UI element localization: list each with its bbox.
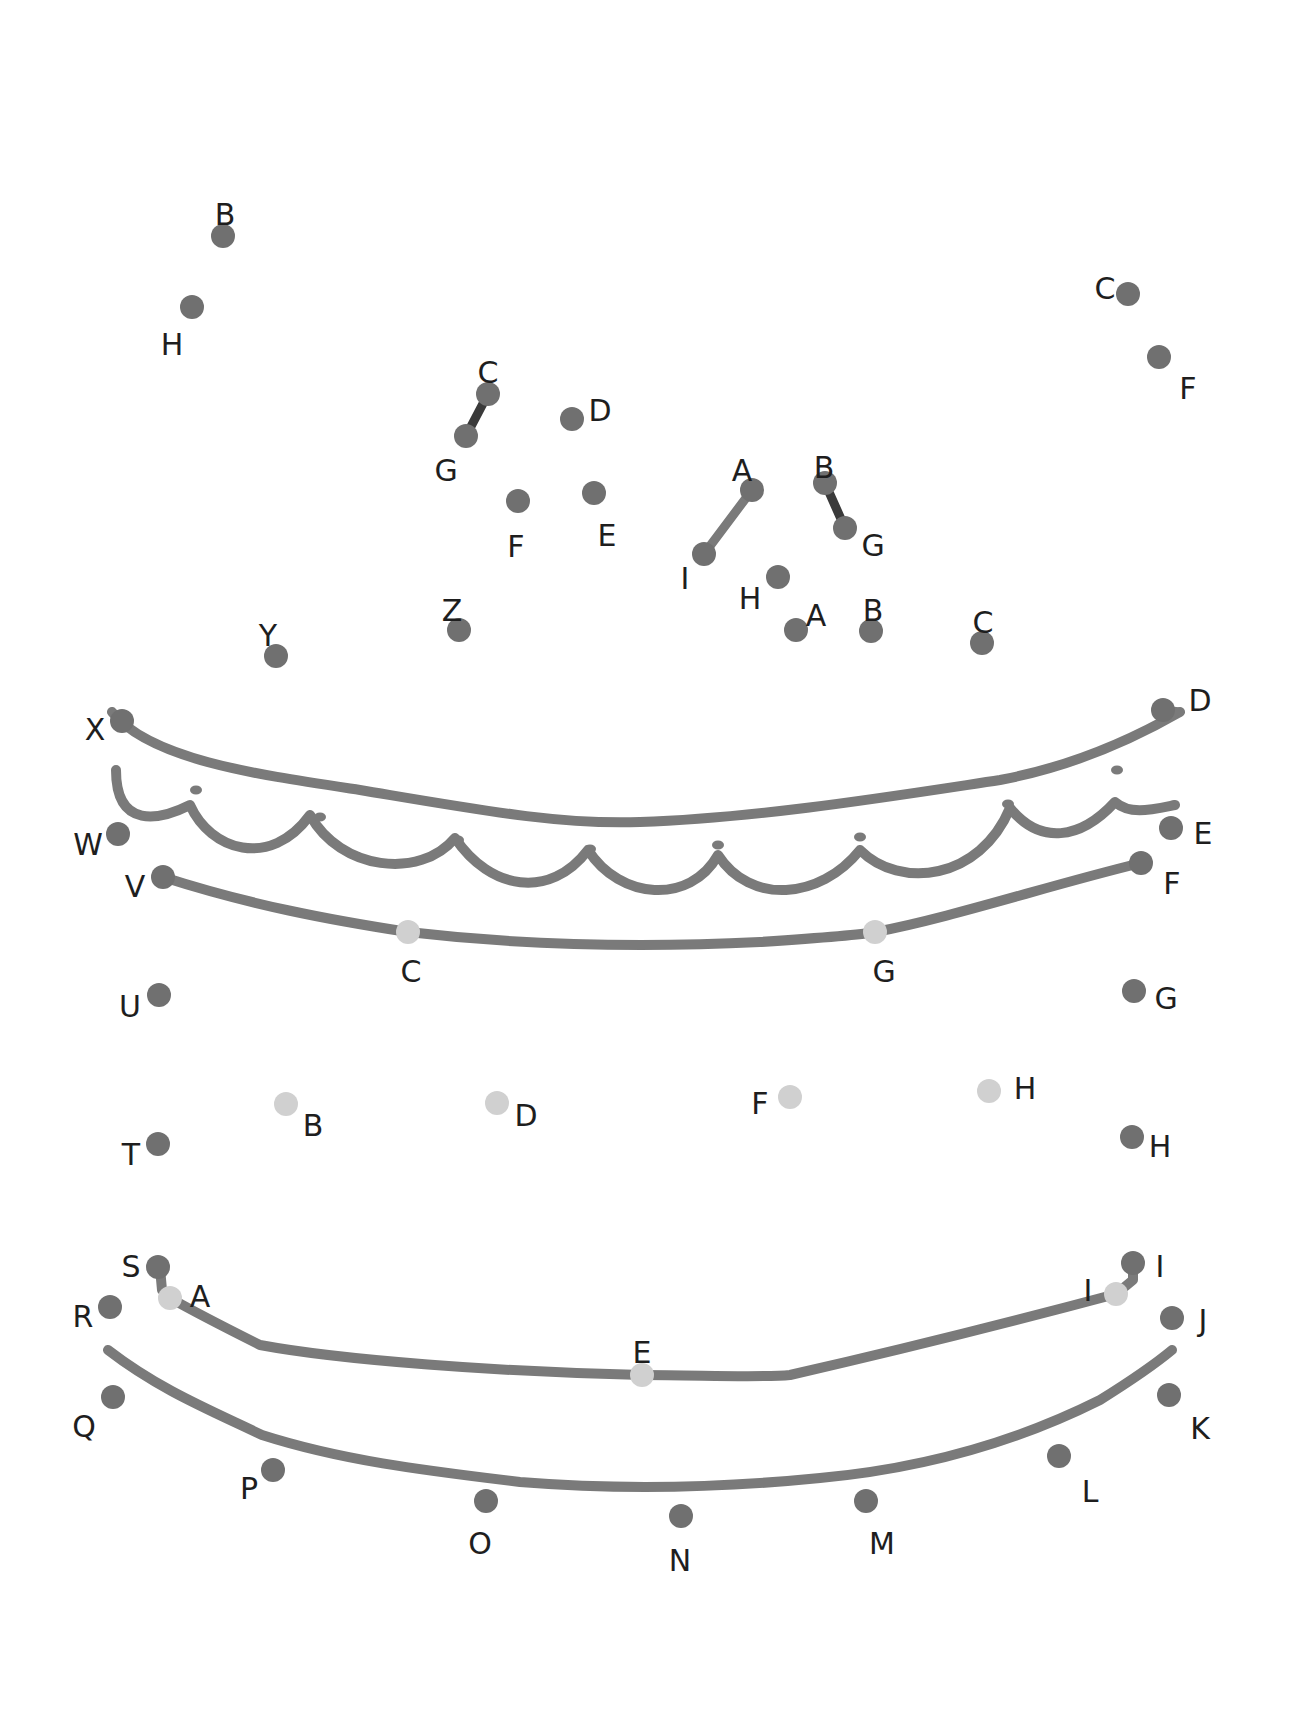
dot-f-hat-top-right[interactable] [1147, 345, 1171, 369]
dot-x-outline[interactable] [110, 709, 134, 733]
dot-h-outline[interactable] [1120, 1125, 1144, 1149]
dot-label: N [669, 1543, 691, 1578]
dot-label: C [401, 954, 422, 989]
dot-d-candle-left[interactable] [560, 407, 584, 431]
dot-i-outline[interactable] [1121, 1251, 1145, 1275]
dot-a-inner[interactable] [158, 1286, 182, 1310]
dot-label: K [1190, 1411, 1211, 1446]
dot-i-inner[interactable] [1104, 1282, 1128, 1306]
scallop-dot [1002, 800, 1014, 809]
dot-v-outline[interactable] [151, 865, 175, 889]
dot-label: G [861, 528, 884, 563]
dot-label: Z [442, 593, 463, 628]
dot-label: F [1163, 866, 1180, 901]
dot-label: T [121, 1137, 141, 1172]
dot-f-candle-left[interactable] [506, 489, 530, 513]
dot-e-outline[interactable] [1159, 816, 1183, 840]
dot-q-outline[interactable] [101, 1385, 125, 1409]
scallop-dot [190, 786, 202, 795]
dot-h-candle-right[interactable] [766, 565, 790, 589]
dot-h-inner[interactable] [977, 1079, 1001, 1103]
dot-label: B [303, 1108, 324, 1143]
scallop-dot [314, 813, 326, 822]
dot-label: L [1082, 1474, 1099, 1509]
page-background [0, 0, 1307, 1717]
dot-label: H [739, 581, 762, 616]
dot-label: I [1084, 1273, 1093, 1308]
scallop-dot [584, 845, 596, 854]
dot-m-outline[interactable] [854, 1489, 878, 1513]
scallop-dot [452, 836, 464, 845]
dot-label: F [507, 529, 524, 564]
dot-label: F [1179, 371, 1196, 406]
dot-label: E [598, 518, 617, 553]
dot-label: G [434, 453, 457, 488]
dot-label: B [814, 450, 835, 485]
dot-label: G [1154, 981, 1177, 1016]
dot-label: A [732, 453, 753, 488]
dot-i-candle-right[interactable] [692, 542, 716, 566]
dot-label: P [240, 1471, 258, 1506]
scallop-dot [712, 841, 724, 850]
dot-label: A [806, 598, 827, 633]
dot-a-candle-right[interactable] [784, 618, 808, 642]
dot-l-outline[interactable] [1047, 1444, 1071, 1468]
dot-label: Q [72, 1409, 96, 1444]
dot-label: V [125, 869, 146, 904]
dot-label: I [1156, 1249, 1165, 1284]
dot-label: O [468, 1526, 492, 1561]
dot-g-inner[interactable] [863, 920, 887, 944]
dot-label: B [863, 593, 884, 628]
dot-label: S [121, 1249, 140, 1284]
dot-c-hat-top-right[interactable] [1116, 282, 1140, 306]
dot-label: D [514, 1098, 537, 1133]
dot-label: J [1197, 1303, 1208, 1338]
dot-label: M [869, 1526, 895, 1561]
dot-f-inner[interactable] [778, 1085, 802, 1109]
dot-label: E [1194, 816, 1213, 851]
dot-u-outline[interactable] [147, 983, 171, 1007]
dot-to-dot-canvas: BHCGDEFAIBGHABCCFXYZDEFGHIJKLMNOPQRSTUVW… [0, 0, 1307, 1717]
dot-label: D [588, 393, 611, 428]
dot-label: R [73, 1299, 94, 1334]
dot-label: G [872, 954, 895, 989]
dot-t-outline[interactable] [146, 1132, 170, 1156]
dot-o-outline[interactable] [474, 1489, 498, 1513]
dot-label: B [215, 197, 236, 232]
dot-label: C [1095, 271, 1116, 306]
dot-label: H [1149, 1129, 1172, 1164]
dot-e-candle-left[interactable] [582, 481, 606, 505]
dot-label: X [85, 712, 106, 747]
dot-r-outline[interactable] [98, 1295, 122, 1319]
dot-g-candle-left[interactable] [454, 424, 478, 448]
dot-h-hat-top-left[interactable] [180, 295, 204, 319]
dot-label: E [633, 1335, 652, 1370]
dot-label: A [190, 1279, 211, 1314]
dot-f-outline[interactable] [1129, 851, 1153, 875]
dot-label: I [681, 561, 690, 596]
dot-label: C [973, 605, 994, 640]
scallop-dot [854, 833, 866, 842]
dot-n-outline[interactable] [669, 1504, 693, 1528]
dot-g-candle-right[interactable] [833, 516, 857, 540]
dot-label: F [751, 1086, 768, 1121]
dot-p-outline[interactable] [261, 1458, 285, 1482]
dot-label: U [119, 989, 141, 1024]
scallop-dot [1111, 766, 1123, 775]
dot-b-inner[interactable] [274, 1092, 298, 1116]
dot-k-outline[interactable] [1157, 1383, 1181, 1407]
dot-label: H [1014, 1071, 1037, 1106]
dot-g-outline[interactable] [1122, 979, 1146, 1003]
dot-label: D [1188, 683, 1211, 718]
dot-label: Y [258, 618, 278, 653]
dot-label: W [73, 827, 103, 862]
dot-s-outline[interactable] [146, 1255, 170, 1279]
dot-label: C [478, 355, 499, 390]
dot-w-outline[interactable] [106, 822, 130, 846]
dot-label: H [161, 327, 184, 362]
dot-c-inner[interactable] [396, 920, 420, 944]
dot-j-outline[interactable] [1160, 1306, 1184, 1330]
dot-d-outline[interactable] [1151, 698, 1175, 722]
dot-d-inner[interactable] [485, 1091, 509, 1115]
